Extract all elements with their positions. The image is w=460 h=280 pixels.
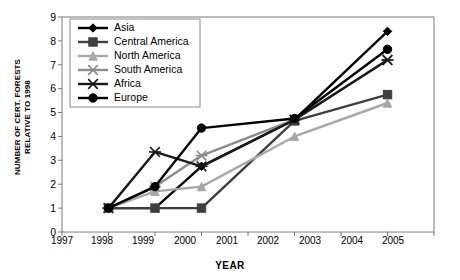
- data-marker-circle: [290, 114, 298, 122]
- data-marker-cross: [381, 55, 393, 65]
- legend-label-africa: Africa: [114, 77, 141, 89]
- data-marker-cross: [195, 151, 207, 161]
- data-marker-cross: [149, 147, 161, 157]
- data-marker-square: [383, 90, 391, 98]
- chart-figure: NUMBER OF CERT. FORESTS RELATIVE TO 1998…: [0, 0, 460, 280]
- legend-label-asia: Asia: [114, 21, 134, 33]
- series-north-america: [104, 99, 391, 213]
- data-marker-square: [151, 204, 159, 212]
- legend-label-south-america: South America: [114, 63, 182, 75]
- legend: Asia Central America North America South…: [70, 19, 200, 107]
- data-marker-circle: [383, 45, 391, 53]
- data-marker-circle: [104, 204, 112, 212]
- legend-label-north-america: North America: [114, 49, 181, 61]
- plot-area: [0, 0, 460, 280]
- legend-label-central-america: Central America: [114, 35, 189, 47]
- data-marker-circle: [197, 124, 205, 132]
- data-marker-square: [197, 204, 205, 212]
- legend-label-europe: Europe: [114, 91, 148, 103]
- data-marker-circle: [151, 182, 159, 190]
